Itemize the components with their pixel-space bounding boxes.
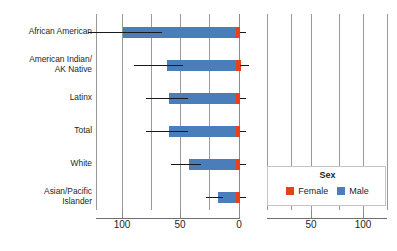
- chart-row: Total: [0, 119, 397, 151]
- x-tick-mark: [311, 210, 312, 218]
- category-label: Total: [0, 126, 92, 136]
- category-label: American Indian/AK Native: [0, 55, 92, 74]
- error-bar-male: [146, 98, 188, 100]
- legend-items-group: FemaleMale: [268, 186, 387, 196]
- error-bar-female: [240, 197, 246, 199]
- error-bar-male: [206, 197, 222, 199]
- category-label-line1: Total: [0, 126, 92, 136]
- category-label-line1: White: [0, 159, 92, 169]
- error-bar-female: [240, 98, 246, 100]
- error-bar-female: [240, 131, 246, 133]
- error-bar-male: [146, 131, 188, 133]
- legend-title: Sex: [268, 170, 387, 180]
- category-label-line2: Islander: [0, 197, 92, 207]
- x-tick-label: 100: [102, 219, 142, 230]
- x-tick-mark: [363, 210, 364, 218]
- category-label-line1: Latinx: [0, 93, 92, 103]
- error-bar-female: [240, 164, 246, 166]
- x-tick-label: 0: [219, 219, 259, 230]
- category-label: Asian/PacificIslander: [0, 187, 92, 206]
- legend-item[interactable]: Male: [337, 186, 369, 196]
- x-tick-mark: [122, 210, 123, 218]
- chart-row: African American: [0, 20, 397, 52]
- chart-container: African AmericanAmerican Indian/AK Nativ…: [0, 0, 397, 251]
- error-bar-male: [88, 32, 163, 34]
- legend-item[interactable]: Female: [286, 186, 328, 196]
- x-tick-mark: [180, 210, 181, 218]
- chart-row: Latinx: [0, 86, 397, 118]
- x-tick-mark: [239, 210, 240, 218]
- error-bar-male: [171, 164, 200, 166]
- error-bar-male: [134, 65, 183, 67]
- legend-swatch-icon: [337, 187, 345, 195]
- category-label: White: [0, 159, 92, 169]
- category-label-line1: African American: [0, 27, 92, 37]
- legend-label: Male: [349, 186, 369, 196]
- axis-caption: [0, 243, 397, 251]
- x-tick-label: 50: [291, 219, 331, 230]
- category-label: Latinx: [0, 93, 92, 103]
- legend: Sex FemaleMale: [267, 166, 386, 206]
- error-bar-female: [240, 32, 246, 34]
- category-label: African American: [0, 27, 92, 37]
- category-label-line2: AK Native: [0, 65, 92, 75]
- x-tick-label: 100: [343, 219, 383, 230]
- legend-label: Female: [298, 186, 328, 196]
- chart-row: American Indian/AK Native: [0, 53, 397, 85]
- x-tick-label: 50: [160, 219, 200, 230]
- legend-swatch-icon: [286, 187, 294, 195]
- error-bar-female: [240, 65, 249, 67]
